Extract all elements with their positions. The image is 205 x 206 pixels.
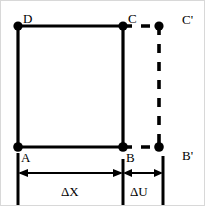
figure-canvas: [1, 1, 205, 206]
dashed-displacement-edges: [123, 26, 159, 147]
vertex-dot-Cprime: [154, 21, 163, 30]
vertex-label-A: A: [21, 151, 30, 164]
vertex-label-B: B: [126, 151, 135, 164]
dimension-label-delta-u: ΔU: [130, 185, 148, 198]
vertex-label-Cprime: C': [182, 13, 193, 26]
geometry-figure: D C C' A B B' ΔX ΔU: [0, 0, 205, 206]
vertex-dot-Bprime: [154, 142, 164, 152]
vertex-label-D: D: [23, 12, 32, 25]
rectangle-edges: [18, 26, 123, 147]
vertex-dots: [13, 21, 164, 151]
dimension-arrows: [18, 169, 163, 177]
vertex-dot-C: [118, 21, 127, 30]
vertex-label-Bprime: B': [182, 149, 193, 162]
vertex-dot-D: [13, 21, 22, 30]
dimension-label-delta-x: ΔX: [61, 185, 79, 198]
vertex-label-C: C: [128, 12, 137, 25]
